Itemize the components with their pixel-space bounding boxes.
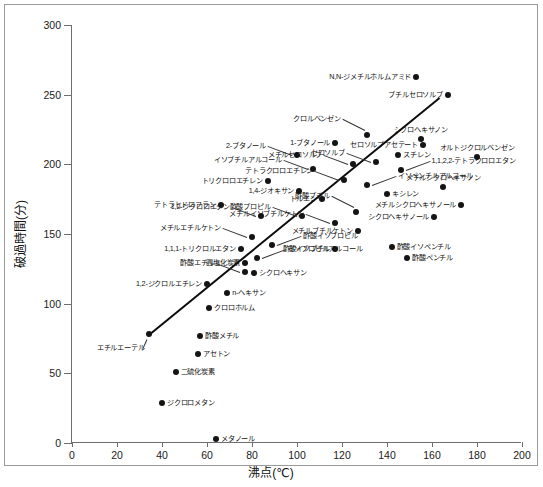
figure-caption	[5, 453, 537, 465]
data-point-label: 酢酸エチル	[180, 259, 214, 266]
data-point-label: 酢酸イソペンチル	[397, 243, 451, 250]
y-axis-tick	[64, 373, 72, 374]
data-point	[384, 191, 390, 197]
data-point	[159, 400, 165, 406]
x-axis-title: 沸点(℃)	[5, 463, 537, 480]
data-point-label: メチルシクロヘキサノン	[406, 174, 481, 181]
label-leader-line	[343, 119, 365, 131]
data-point	[254, 255, 260, 261]
data-point-label: N,N-ジメチルホルムアミド	[329, 73, 411, 80]
data-point-label: メチルシクロヘキサノール	[375, 201, 457, 208]
data-point-label: 1,1,2,2-テトラクロロエタン	[432, 157, 516, 164]
data-point-label: 1-ブタノール	[290, 140, 330, 147]
data-point	[389, 244, 395, 250]
data-point-label: テトラクロロエチレン	[245, 167, 313, 174]
data-point	[420, 142, 426, 148]
y-axis-tick-label: 150	[43, 229, 61, 240]
data-point-label: セロソルブアセテート	[350, 141, 418, 148]
y-axis-title: 破過時間(分)	[11, 200, 28, 268]
data-point-label: 2-ブタノール	[226, 142, 266, 149]
data-point	[431, 214, 437, 220]
label-leader-line	[223, 228, 247, 238]
y-axis-tick-label: 50	[49, 368, 61, 379]
x-axis-tick	[522, 442, 523, 447]
y-axis-tick	[64, 95, 72, 96]
data-point	[341, 177, 347, 183]
data-point	[350, 161, 356, 167]
data-point	[364, 182, 370, 188]
plot-area: 0501001502002503000204060801001201401601…	[71, 25, 521, 443]
y-axis-tick-label: 0	[55, 438, 61, 449]
data-point-label: 二硫化炭素	[181, 368, 215, 375]
data-point	[242, 260, 248, 266]
label-leader-line	[306, 214, 330, 224]
data-point	[353, 209, 359, 215]
data-point	[197, 333, 203, 339]
data-point	[440, 184, 446, 190]
y-axis-tick-label: 100	[43, 298, 61, 309]
data-point	[265, 178, 271, 184]
x-axis-tick	[432, 442, 433, 447]
data-point	[413, 74, 419, 80]
data-point-label: テトラヒドロフラン	[154, 201, 215, 208]
data-point	[395, 152, 401, 158]
data-point-label: 酢酸イソプロピル	[303, 233, 357, 240]
label-leader-line	[372, 176, 396, 186]
data-point-label: オルトジクロルベンゼン	[440, 145, 515, 152]
data-point	[218, 202, 224, 208]
data-point-label: 1,4-ジオキサン	[249, 187, 295, 194]
data-point	[251, 270, 257, 276]
x-axis-tick	[342, 442, 343, 447]
y-axis-tick	[64, 164, 72, 165]
data-point-label: 1,2-ジクロルエチレン	[136, 281, 202, 288]
label-leader-line	[405, 161, 429, 171]
data-point-label: メチルイソブチルケトン	[229, 210, 304, 217]
data-point-label: アセトン	[203, 350, 230, 357]
data-point	[249, 234, 255, 240]
data-point-label: クロルベンゼン	[293, 115, 341, 122]
chart-frame: 破過時間(分) 沸点(℃) 05010015020025030002040608…	[4, 4, 538, 466]
data-point	[146, 331, 152, 337]
data-point-label: 酢酸ブチル	[295, 192, 329, 199]
data-point	[206, 305, 212, 311]
x-axis-tick	[387, 442, 388, 447]
data-point	[195, 351, 201, 357]
y-axis-tick-label: 200	[43, 159, 61, 170]
data-point-label: 1,1,1-トリクロルエタン	[164, 246, 236, 253]
x-axis-tick	[297, 442, 298, 447]
x-axis-tick	[477, 442, 478, 447]
data-point-label: ブチルセロソルブ	[388, 91, 442, 98]
label-leader-line	[315, 171, 339, 181]
data-point-label: ジクロロメタン	[167, 399, 215, 406]
y-axis-tick	[64, 25, 72, 26]
data-point-label: メタノール	[221, 435, 255, 442]
data-point	[332, 140, 338, 146]
y-axis-tick	[64, 443, 72, 444]
data-point-label: シクロヘキサン	[259, 269, 307, 276]
y-axis-tick-label: 250	[43, 89, 61, 100]
data-point-label: トリクロロエチレン	[202, 177, 263, 184]
data-point	[332, 220, 338, 226]
y-axis-tick	[64, 234, 72, 235]
data-point	[404, 255, 410, 261]
x-axis-tick	[72, 442, 73, 447]
data-point-label: イソブチルアルコール	[214, 156, 282, 163]
data-point	[242, 269, 248, 275]
data-point-label: シクロヘキサノン	[394, 127, 448, 134]
y-axis-tick	[64, 304, 72, 305]
data-point-label: イソプロピルアルコール	[288, 245, 363, 252]
data-point-label: スチレン	[403, 151, 430, 158]
data-point	[213, 436, 219, 442]
data-point-label: n-ヘキサン	[232, 289, 265, 296]
chart-root: 破過時間(分) 沸点(℃) 05010015020025030002040608…	[0, 0, 543, 487]
data-point-label: シクロヘキサノール	[368, 214, 429, 221]
data-point	[445, 92, 451, 98]
data-point-label: エチルエーテル	[97, 345, 145, 352]
data-point	[173, 369, 179, 375]
data-point	[458, 202, 464, 208]
data-point	[224, 290, 230, 296]
data-point	[364, 132, 370, 138]
data-point-label: クロロホルム	[214, 304, 255, 311]
y-axis-tick-label: 300	[43, 20, 61, 31]
x-axis-tick	[117, 442, 118, 447]
